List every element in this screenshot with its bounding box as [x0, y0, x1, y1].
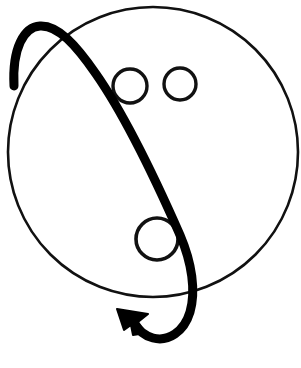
drawing-canvas: [0, 0, 301, 368]
